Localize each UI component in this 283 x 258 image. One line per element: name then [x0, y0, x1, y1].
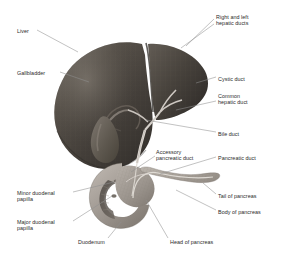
leader-hepatic-ducts-b [181, 24, 214, 48]
leader-hepatic-ducts-a [186, 19, 214, 46]
leader-head-of-pancreas [146, 200, 168, 238]
anatomy-figure: LiverGallbladderRight and left hepatic d… [0, 0, 283, 258]
label-cystic-duct: Cystic duct [218, 76, 245, 82]
label-minor-duodenal-papilla: Minor duodenal papilla [17, 190, 55, 203]
label-gallbladder: Gallbladder [17, 70, 45, 76]
label-bile-duct: Bile duct [218, 131, 239, 137]
label-head-of-pancreas: Head of pancreas [170, 239, 213, 245]
label-body-of-pancreas: Body of pancreas [218, 209, 261, 215]
label-duodenum: Duodenum [78, 239, 105, 245]
label-common-hepatic-duct: Common hepatic duct [218, 93, 248, 106]
leader-bile-duct [146, 120, 216, 132]
leader-body-of-pancreas [176, 190, 216, 210]
major-duodenal-papilla-marker [111, 194, 116, 198]
label-pancreatic-duct: Pancreatic duct [218, 155, 256, 161]
label-major-duodenal-papilla: Major duodenal papilla [17, 219, 55, 232]
label-liver: Liver [17, 28, 29, 34]
leader-tail-of-pancreas [203, 183, 216, 194]
pancreas-organ [115, 163, 219, 207]
label-tail-of-pancreas: Tail of pancreas [218, 193, 257, 199]
label-right-and-left-hepatic-ducts: Right and left hepatic ducts [216, 14, 248, 27]
label-accessory-pancreatic-duct: Accessory pancreatic duct [156, 149, 193, 162]
leader-liver [37, 30, 78, 52]
